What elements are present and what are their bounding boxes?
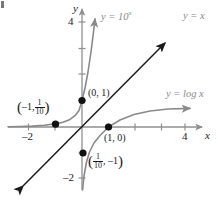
y-axis-name: y	[73, 3, 78, 14]
point-label-0-1: (0, 1)	[88, 88, 110, 98]
point-1-0	[105, 123, 112, 130]
close-paren: )	[118, 155, 123, 167]
close-paren: )	[45, 101, 50, 113]
open-paren: (	[17, 101, 22, 113]
fraction-one-tenth: 1 10	[93, 153, 103, 171]
point-label-tenth-neg1: ( 1 10 , –1)	[88, 153, 123, 171]
exponential-curve-label-exponent: x	[129, 9, 132, 17]
fraction-one-tenth: 1 10	[35, 99, 45, 117]
logarithm-curve-label: y = log x	[166, 89, 204, 100]
exponential-curve-label: y = 10x	[101, 10, 132, 22]
point-label-neg1-tenth-x: –1,	[22, 101, 35, 112]
point-neg1-tenth	[52, 121, 59, 128]
y-tick-label-neg2: –2	[63, 172, 74, 183]
fraction-numerator: 1	[35, 99, 45, 107]
y-tick-label-4: 4	[68, 16, 74, 27]
identity-line-label: y = x	[183, 11, 205, 22]
point-0-1	[78, 97, 85, 104]
point-label-tenth-neg1-y: , –1	[103, 155, 118, 166]
fraction-denominator: 10	[35, 107, 45, 116]
fraction-numerator: 1	[93, 153, 103, 161]
point-tenth-neg1	[79, 149, 86, 156]
logarithm-curve	[83, 108, 190, 190]
x-axis-name: x	[205, 130, 210, 141]
x-tick-label-neg2: –2	[22, 131, 33, 142]
point-label-neg1-tenth: (–1, 1 10 )	[17, 99, 50, 117]
x-tick-label-4: 4	[182, 131, 188, 142]
point-label-1-0: (1, 0)	[104, 133, 126, 143]
fraction-denominator: 10	[93, 161, 103, 170]
exponential-curve-label-text: y = 10	[101, 11, 129, 22]
